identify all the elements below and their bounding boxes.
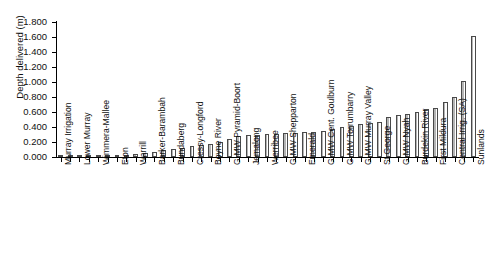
bar [115, 155, 120, 157]
x-axis-tick-mark [211, 158, 212, 162]
bar [190, 146, 195, 157]
x-axis-tick-label: Boyne River [214, 118, 224, 165]
y-axis-tick-label: 0.400 [23, 121, 47, 132]
x-axis-tick-mark [173, 158, 174, 162]
bar-shading [284, 134, 285, 156]
bar-shading [266, 135, 267, 156]
x-axis-tick-label: Cressy-Longford [196, 101, 206, 165]
bar-shading [134, 155, 135, 156]
x-axis-tick-label: G-MW Cent. Goulburn [327, 80, 337, 165]
x-axis-tick-label: G-MW Murray Valley [364, 86, 374, 165]
x-axis-tick-label: Bundaberg [177, 123, 187, 165]
bar-shading [359, 125, 360, 156]
bar [171, 149, 176, 157]
x-axis-tick-mark [398, 158, 399, 162]
bar [415, 112, 420, 157]
bar-shading [322, 132, 323, 156]
x-axis-tick-label: Emerald [308, 133, 318, 165]
x-axis-tick-mark [417, 158, 418, 162]
x-axis-tick-label: Werribee [271, 130, 281, 165]
bar-shading [472, 37, 473, 157]
bar-shading [303, 133, 304, 156]
x-axis-tick-label: Central Irrig. (SA) [458, 98, 468, 165]
x-axis-tick-mark [305, 158, 306, 162]
bar-shading [416, 113, 417, 156]
x-axis-tick-label: Barker-Barambah [158, 97, 168, 165]
x-axis-tick-label: Sunlands [477, 129, 486, 165]
y-axis-tick-label: 0.600 [23, 106, 47, 117]
x-axis-tick-mark [61, 158, 62, 162]
bar [265, 134, 270, 157]
bar-shading [172, 150, 173, 156]
x-axis-tick-mark [286, 158, 287, 162]
plot-area [56, 22, 478, 157]
y-axis-tick-label: 1.600 [23, 31, 47, 42]
x-axis-tick-mark [436, 158, 437, 162]
x-axis-tick-mark [473, 158, 474, 162]
x-axis-tick-label: Burdekin River [421, 109, 431, 165]
x-axis-tick-mark [136, 158, 137, 162]
bar-shading [453, 98, 454, 156]
bar [396, 115, 401, 157]
x-axis-tick-mark [248, 158, 249, 162]
bar-shading [434, 109, 435, 157]
x-axis-tick-label: Lower Murray [83, 112, 93, 165]
y-axis-tick-label: 1.000 [23, 76, 47, 87]
x-axis-tick-label: Warrill [139, 141, 149, 165]
bar-shading [228, 140, 229, 156]
bar-shading [191, 147, 192, 156]
bar [340, 127, 345, 157]
x-axis-tick-mark [323, 158, 324, 162]
bar-shading [247, 136, 248, 156]
bar-shading [397, 116, 398, 156]
x-axis-tick-mark [380, 158, 381, 162]
y-axis-tick-label: 0.800 [23, 91, 47, 102]
y-axis-tick-label: 1.800 [23, 16, 47, 27]
x-axis-tick-mark [361, 158, 362, 162]
x-axis-tick-label: G-MW Shepparton [289, 93, 299, 165]
bar-shading [209, 145, 210, 156]
x-axis-tick-mark [117, 158, 118, 162]
x-axis-tick-mark [154, 158, 155, 162]
x-axis-tick-label: G-MW Nyah [402, 118, 412, 165]
x-axis-tick-label: Murray Irrigation [64, 102, 74, 165]
y-axis-tick-label: 0.000 [23, 151, 47, 162]
x-axis-tick-label: G-MW Pyramid-Boort [233, 83, 243, 165]
bar [471, 36, 476, 158]
x-axis-tick-label: G-MW Torrumbarry [346, 92, 356, 165]
bar-shading [153, 153, 154, 156]
y-axis-tick-label: 1.400 [23, 46, 47, 57]
x-axis-tick-mark [342, 158, 343, 162]
bar [96, 155, 101, 157]
y-axis-tick-label: 1.200 [23, 61, 47, 72]
x-axis-tick-mark [455, 158, 456, 162]
x-axis-tick-label: Jemalong [252, 128, 262, 165]
y-axis-tick-label: 0.200 [23, 136, 47, 147]
x-axis-tick-label: Wimmera-Mallee [102, 100, 112, 165]
bar-shading [378, 123, 379, 156]
x-axis-tick-mark [229, 158, 230, 162]
x-axis-tick-mark [267, 158, 268, 162]
bar [321, 131, 326, 157]
bar [246, 135, 251, 157]
x-axis-tick-mark [98, 158, 99, 162]
x-axis-tick-mark [192, 158, 193, 162]
x-axis-tick-label: First Mildura [439, 118, 449, 165]
y-axis-tick-mark [52, 157, 56, 158]
x-axis-tick-mark [79, 158, 80, 162]
x-axis-tick-label: St George [383, 126, 393, 165]
x-axis-tick-label: Eton [121, 147, 131, 165]
bar-shading [341, 128, 342, 156]
